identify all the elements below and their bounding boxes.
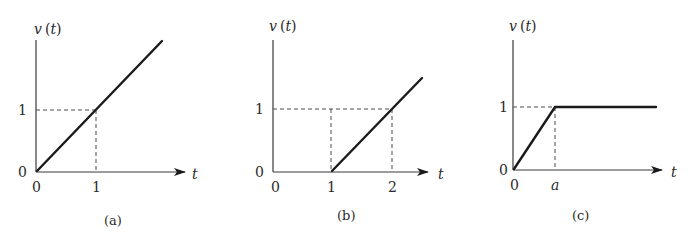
x-tick-1: 1 (92, 179, 101, 195)
graph-b: v(t) t 1 0 0 1 2 (b) (255, 18, 444, 223)
x-axis-label: t (192, 166, 198, 182)
x-tick-1: 1 (327, 179, 336, 195)
y-tick-1: 1 (499, 99, 508, 115)
y-tick-1: 1 (18, 102, 27, 118)
graph-a: v(t) t 1 0 0 1 (a) (18, 21, 198, 228)
x-axis-label: t (438, 166, 444, 182)
y-tick-0: 0 (499, 162, 508, 178)
y-tick-1: 1 (255, 101, 264, 117)
y-axis-label: v(t) (34, 21, 62, 37)
x-tick-0: 0 (510, 177, 519, 193)
y-tick-0: 0 (255, 164, 264, 180)
caption-a: (a) (104, 213, 122, 228)
x-tick-0: 0 (271, 179, 280, 195)
ramp-line (37, 41, 162, 171)
ramp-line (332, 78, 422, 171)
ramp-step-line (514, 107, 656, 169)
x-tick-a: a (551, 177, 559, 193)
x-tick-0: 0 (32, 179, 41, 195)
graph-c: v(t) t 1 0 0 a (c) (499, 18, 677, 223)
y-axis-label: v(t) (509, 18, 537, 34)
x-tick-2: 2 (388, 179, 397, 195)
y-axis-label: v(t) (269, 18, 297, 34)
caption-c: (c) (572, 208, 589, 223)
figure-canvas: v(t) t 1 0 0 1 (a) v(t) t 1 0 0 1 2 (b) … (0, 0, 690, 248)
caption-b: (b) (337, 208, 355, 223)
x-axis-label: t (671, 164, 677, 180)
y-tick-0: 0 (18, 164, 27, 180)
